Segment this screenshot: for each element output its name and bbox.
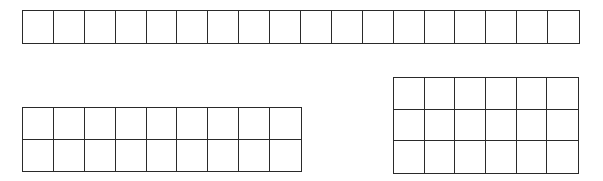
grid-cell bbox=[486, 141, 517, 173]
grid-cell bbox=[54, 108, 85, 140]
grid-cell bbox=[270, 108, 301, 140]
grid-cell bbox=[455, 141, 486, 173]
grid-cell bbox=[425, 141, 456, 173]
grid-cell bbox=[116, 140, 147, 172]
grid-cell bbox=[23, 108, 54, 140]
grid-cell bbox=[548, 11, 579, 43]
grid-cell bbox=[486, 78, 517, 110]
grid-cell bbox=[425, 110, 456, 142]
grid-cell bbox=[147, 11, 178, 43]
grid-cell bbox=[270, 11, 301, 43]
grid-cell bbox=[239, 108, 270, 140]
grid-cell bbox=[23, 11, 54, 43]
grid-cell bbox=[486, 11, 517, 43]
grid-cell bbox=[486, 110, 517, 142]
grid-3x6 bbox=[393, 77, 579, 174]
grid-cell bbox=[85, 140, 116, 172]
grid-cell bbox=[54, 11, 85, 43]
grid-cell bbox=[85, 108, 116, 140]
grid-cell bbox=[116, 11, 147, 43]
grid-cell bbox=[208, 140, 239, 172]
grid-1x18 bbox=[22, 10, 580, 44]
grid-cell bbox=[517, 110, 548, 142]
grid-cell bbox=[425, 78, 456, 110]
grid-cell bbox=[332, 11, 363, 43]
grid-cell bbox=[239, 11, 270, 43]
grid-cell bbox=[455, 78, 486, 110]
grid-cell bbox=[270, 140, 301, 172]
grid-cell bbox=[394, 110, 425, 142]
grid-cell bbox=[85, 11, 116, 43]
grid-cell bbox=[517, 11, 548, 43]
grid-cell bbox=[54, 140, 85, 172]
grid-cell bbox=[208, 108, 239, 140]
grid-cell bbox=[517, 78, 548, 110]
grid-cell bbox=[517, 141, 548, 173]
grid-cell bbox=[394, 78, 425, 110]
grid-cell bbox=[394, 11, 425, 43]
grid-cell bbox=[177, 11, 208, 43]
grid-cell bbox=[547, 78, 578, 110]
grid-cell bbox=[547, 141, 578, 173]
grid-cell bbox=[116, 108, 147, 140]
grid-cell bbox=[239, 140, 270, 172]
grid-cell bbox=[455, 110, 486, 142]
grid-cell bbox=[425, 11, 456, 43]
grid-cell bbox=[177, 140, 208, 172]
grid-cell bbox=[301, 11, 332, 43]
grid-cell bbox=[208, 11, 239, 43]
grid-cell bbox=[455, 11, 486, 43]
grid-cell bbox=[363, 11, 394, 43]
grid-cell bbox=[394, 141, 425, 173]
grid-2x9 bbox=[22, 107, 302, 172]
grid-cell bbox=[547, 110, 578, 142]
grid-cell bbox=[147, 140, 178, 172]
grid-cell bbox=[177, 108, 208, 140]
grid-cell bbox=[23, 140, 54, 172]
grid-cell bbox=[147, 108, 178, 140]
